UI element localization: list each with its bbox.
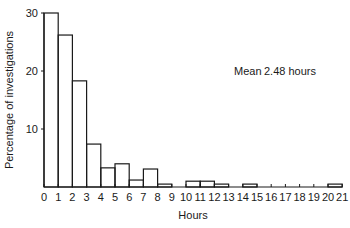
y-tick-label: 10 [26,123,38,135]
x-tick-label: 1 [55,191,61,203]
x-tick-label: 0 [41,191,47,203]
x-tick-label: 3 [84,191,90,203]
x-axis-label: Hours [178,209,208,221]
x-tick-label: 18 [293,191,305,203]
mean-label: Mean [234,65,262,77]
x-tick-label: 9 [169,191,175,203]
x-tick-label: 21 [336,191,348,203]
y-tick-label: 20 [26,65,38,77]
y-tick-label: 30 [26,7,38,19]
x-tick-label: 7 [140,191,146,203]
histogram-bar [129,180,143,187]
histogram-bar [186,181,200,187]
x-tick-label: 15 [251,191,263,203]
histogram-bar [115,164,129,187]
x-tick-label: 12 [208,191,220,203]
x-tick-label: 14 [237,191,249,203]
x-tick-label: 20 [322,191,334,203]
x-tick-label: 13 [222,191,234,203]
histogram-bar [44,13,58,187]
x-tick-label: 16 [265,191,277,203]
histogram-bar [101,168,115,187]
histogram-bar [143,169,157,187]
x-tick-label: 5 [112,191,118,203]
mean-value: 2.48 hours [264,65,316,77]
histogram-bar [87,144,101,187]
histogram-bar [72,81,86,187]
y-axis-ticks: 102030 [26,7,44,135]
histogram-bars [44,13,342,187]
histogram-bar [58,35,72,187]
x-tick-label: 19 [308,191,320,203]
x-tick-label: 11 [194,191,205,203]
x-tick-label: 10 [180,191,192,203]
x-tick-label: 17 [279,191,291,203]
histogram-chart: 0123456789101112131415161718192021 10203… [0,0,350,228]
x-tick-label: 2 [69,191,75,203]
histogram-bar [200,181,214,187]
y-axis-label: Percentage of investigations [3,30,15,169]
x-tick-label: 6 [126,191,132,203]
x-tick-label: 8 [155,191,161,203]
x-tick-label: 4 [98,191,104,203]
axes [44,13,342,187]
